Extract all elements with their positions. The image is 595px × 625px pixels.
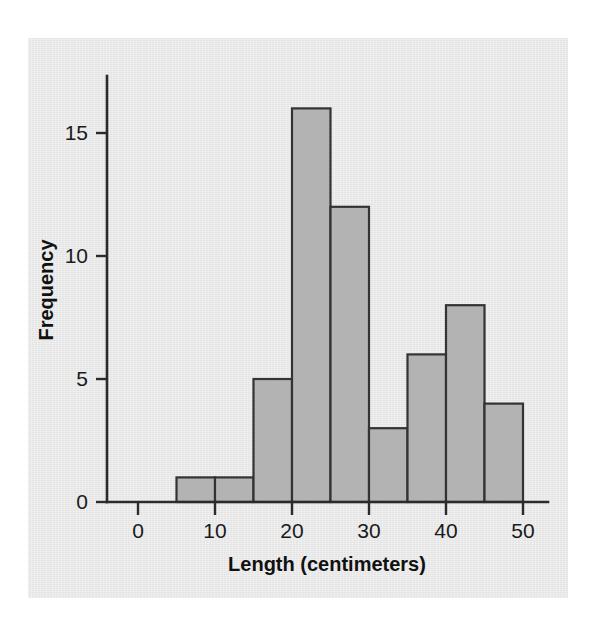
histogram-bar bbox=[215, 477, 254, 502]
histogram-bar bbox=[177, 477, 216, 502]
histogram-bar bbox=[369, 428, 408, 502]
y-axis-tick-label: 10 bbox=[65, 244, 88, 267]
y-axis-tick-label: 15 bbox=[65, 121, 88, 144]
x-axis-tick-label: 0 bbox=[132, 519, 144, 542]
histogram-bar bbox=[254, 379, 293, 502]
x-axis-tick-label: 10 bbox=[203, 519, 226, 542]
x-axis-tick-label: 20 bbox=[280, 519, 303, 542]
x-axis-tick-label: 30 bbox=[357, 519, 380, 542]
y-axis-title: Frequency bbox=[35, 239, 57, 341]
histogram-figure: 051015 01020304050 Length (centimeters) … bbox=[0, 0, 595, 625]
histogram-bar bbox=[292, 108, 331, 502]
x-axis-title: Length (centimeters) bbox=[228, 553, 426, 575]
histogram-bar bbox=[485, 404, 524, 502]
x-axis-tick-label: 40 bbox=[434, 519, 457, 542]
histogram-bar bbox=[408, 354, 447, 502]
histogram-plot: 051015 01020304050 Length (centimeters) … bbox=[0, 0, 595, 625]
histogram-bar bbox=[446, 305, 485, 502]
x-axis-ticks: 01020304050 bbox=[132, 502, 535, 542]
y-axis-tick-label: 5 bbox=[76, 367, 88, 390]
histogram-bars bbox=[177, 108, 524, 502]
y-axis-tick-label: 0 bbox=[76, 490, 88, 513]
y-axis-ticks: 051015 bbox=[65, 121, 107, 513]
histogram-bar bbox=[331, 207, 370, 502]
x-axis-tick-label: 50 bbox=[511, 519, 534, 542]
